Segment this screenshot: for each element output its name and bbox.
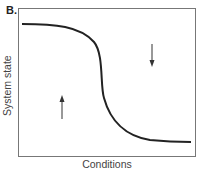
- x-axis-label: Conditions: [18, 158, 196, 170]
- y-axis-label: System state: [1, 56, 13, 116]
- up-arrow-icon: [60, 95, 65, 119]
- sigmoid-curve: [22, 24, 191, 142]
- plot-frame: [19, 9, 196, 157]
- plot-area: [0, 0, 204, 171]
- down-arrow-icon: [150, 44, 155, 67]
